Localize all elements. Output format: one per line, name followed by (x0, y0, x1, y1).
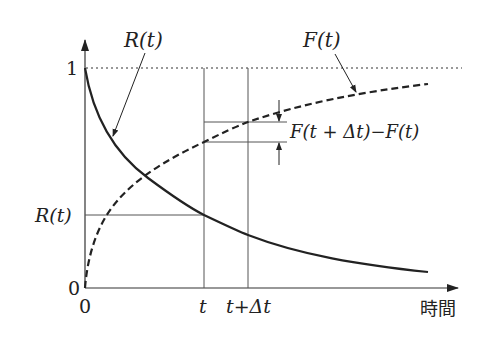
rt-curve-label: R(t) (123, 28, 163, 52)
reliability-diagram: R(t) F(t) F(t + Δt)−F(t) 1 0 R(t) 0 t t+… (0, 0, 485, 337)
y-tick-rt: R(t) (34, 204, 72, 226)
ft-leader-arrow (335, 54, 356, 92)
rt-leader-arrow (113, 53, 145, 136)
x-tick-t: t (199, 295, 207, 317)
x-tick-0: 0 (79, 295, 91, 317)
curve-f (85, 84, 428, 288)
ft-curve-label: F(t) (302, 28, 341, 52)
y-tick-1: 1 (66, 57, 78, 79)
x-tick-t-dt: t+Δt (226, 295, 271, 317)
x-axis-label: 時間 (420, 298, 456, 319)
difference-label: F(t + Δt)−F(t) (289, 121, 419, 142)
curve-r (85, 68, 428, 272)
